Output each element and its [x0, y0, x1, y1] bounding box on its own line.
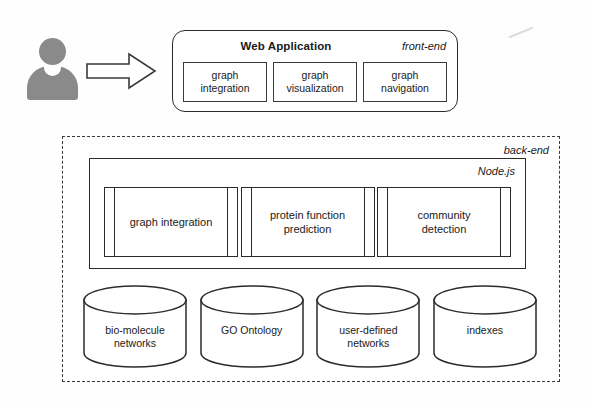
backend-module-label-line1: protein function: [270, 208, 345, 222]
backend-container: back-end Node.js graph integration prote…: [62, 136, 560, 382]
frontend-module-label-line2: integration: [200, 82, 249, 95]
backend-module-label-line2: prediction: [284, 222, 332, 236]
datastore-indexes[interactable]: indexes: [432, 284, 538, 369]
datastore-label: GO Ontology: [199, 324, 305, 337]
datastore-row: bio-molecule networks GO Ontology: [82, 284, 538, 369]
datastore-label-line1: bio-molecule: [82, 324, 188, 337]
nodejs-runtime-container: Node.js graph integration protein functi…: [89, 158, 526, 269]
nodejs-label: Node.js: [478, 165, 515, 177]
frontend-module-label-line1: graph: [302, 69, 329, 82]
frontend-tier-label: front-end: [402, 40, 446, 52]
datastore-label: user-defined networks: [315, 324, 421, 350]
datastore-label-line2: networks: [315, 337, 421, 350]
frontend-module-row: graph integration graph visualization gr…: [183, 62, 447, 102]
backend-module-protein-function-prediction[interactable]: protein function prediction: [241, 187, 375, 257]
datastore-bio-molecule-networks[interactable]: bio-molecule networks: [82, 284, 188, 369]
frontend-module-graph-navigation[interactable]: graph navigation: [363, 62, 447, 102]
right-block-arrow-icon: [85, 52, 157, 90]
frontend-container: Web Application front-end graph integrat…: [172, 30, 458, 112]
datastore-label-line1: GO Ontology: [199, 324, 305, 337]
backend-module-row: graph integration protein function predi…: [104, 187, 511, 257]
backend-module-graph-integration[interactable]: graph integration: [104, 187, 238, 257]
frontend-module-graph-integration[interactable]: graph integration: [183, 62, 267, 102]
datastore-label-line2: networks: [82, 337, 188, 350]
frontend-module-label-line1: graph: [392, 69, 419, 82]
backend-tier-label: back-end: [504, 144, 549, 156]
scan-artifact: [508, 26, 536, 40]
backend-module-label-line2: detection: [422, 222, 467, 236]
datastore-label: indexes: [432, 324, 538, 337]
backend-module-label-line1: graph integration: [130, 215, 213, 229]
frontend-module-label-line1: graph: [212, 69, 239, 82]
backend-module-community-detection[interactable]: community detection: [377, 187, 511, 257]
frontend-module-graph-visualization[interactable]: graph visualization: [273, 62, 357, 102]
user-silhouette-icon: [24, 38, 80, 100]
frontend-module-label-line2: navigation: [381, 82, 429, 95]
datastore-label: bio-molecule networks: [82, 324, 188, 350]
datastore-go-ontology[interactable]: GO Ontology: [199, 284, 305, 369]
datastore-label-line1: indexes: [432, 324, 538, 337]
datastore-user-defined-networks[interactable]: user-defined networks: [315, 284, 421, 369]
user-head-shape: [39, 38, 66, 65]
datastore-label-line1: user-defined: [315, 324, 421, 337]
frontend-module-label-line2: visualization: [286, 82, 343, 95]
diagram-canvas: Web Application front-end graph integrat…: [0, 0, 593, 404]
backend-module-label-line1: community: [417, 208, 470, 222]
